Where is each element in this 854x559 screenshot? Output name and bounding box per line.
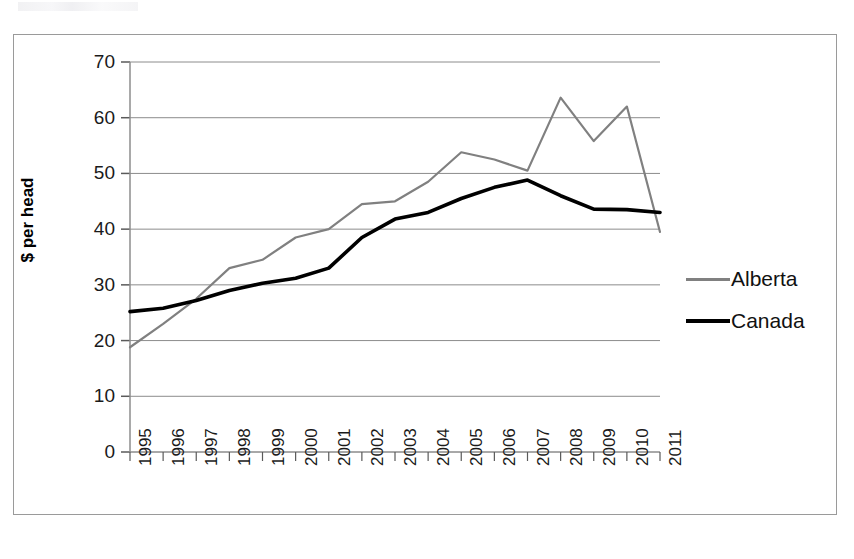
y-axis-title: $ per head bbox=[18, 150, 38, 290]
x-tick-label: 1996 bbox=[170, 428, 187, 466]
scan-artifact bbox=[18, 2, 138, 11]
x-tick-label: 2007 bbox=[535, 428, 552, 466]
x-tick-label: 1999 bbox=[270, 428, 287, 466]
x-tick-label: 2001 bbox=[336, 428, 353, 466]
x-tick-label: 1998 bbox=[236, 428, 253, 466]
x-tick-label: 2008 bbox=[568, 428, 585, 466]
chart-legend: Alberta Canada bbox=[686, 258, 826, 342]
x-tick-label: 1995 bbox=[137, 428, 154, 466]
y-tick-label: 70 bbox=[69, 52, 115, 71]
x-tick-label: 2000 bbox=[303, 428, 320, 466]
x-tick-label: 1997 bbox=[203, 428, 220, 466]
legend-label-alberta: Alberta bbox=[731, 267, 798, 291]
legend-item-canada[interactable]: Canada bbox=[686, 300, 826, 342]
y-tick-label: 40 bbox=[69, 219, 115, 238]
legend-line-alberta bbox=[686, 278, 730, 281]
x-tick-label: 2005 bbox=[468, 428, 485, 466]
x-tick-label: 2002 bbox=[369, 428, 386, 466]
x-tick-label: 2011 bbox=[667, 429, 684, 466]
y-tick-label: 20 bbox=[69, 331, 115, 350]
y-tick-label: 0 bbox=[69, 442, 115, 461]
y-tick-label: 60 bbox=[69, 108, 115, 127]
y-tick-label: 30 bbox=[69, 275, 115, 294]
legend-line-canada bbox=[686, 319, 730, 323]
x-tick-label: 2010 bbox=[634, 428, 651, 466]
x-tick-label: 2009 bbox=[601, 428, 618, 466]
legend-label-canada: Canada bbox=[731, 309, 805, 333]
x-tick-label: 2006 bbox=[501, 428, 518, 466]
x-tick-label: 2004 bbox=[435, 428, 452, 466]
legend-item-alberta[interactable]: Alberta bbox=[686, 258, 826, 300]
y-tick-label: 10 bbox=[69, 386, 115, 405]
y-tick-label: 50 bbox=[69, 163, 115, 182]
chart-page: $ per head 706050403020100 1995199619971… bbox=[0, 0, 854, 559]
x-tick-label: 2003 bbox=[402, 428, 419, 466]
